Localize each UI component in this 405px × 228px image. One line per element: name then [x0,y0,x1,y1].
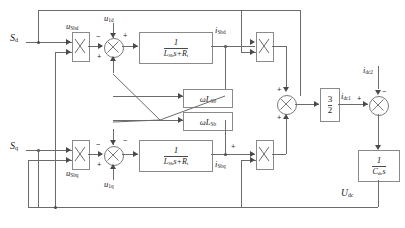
feedback-rail-bottom-left-riser [28,160,29,207]
label-u-dc: Udc [341,189,353,199]
arrow-multqright-sumcenter [283,114,289,119]
arrow-sumq-tfq [133,151,138,157]
label-u-sbd: uSbd [66,22,78,31]
multiplier-q-left [72,140,90,170]
wire-multdright-out [272,46,286,47]
sum-cross-icon [370,97,386,113]
arrow-multd-sumd [98,43,103,49]
sign-sumd-minus: − [96,33,100,41]
cross-coupling-crossover [112,72,228,124]
input-label-sd: Sd [10,33,18,43]
wire-u1q-up [113,168,114,180]
sign-sumd-plus-top: + [123,32,127,40]
control-block-diagram: Sd uSbd u1d − + + 1 LSbs+R [0,0,405,228]
gain-numerator: 3 [328,95,333,104]
capacitor-block: 1 Cdcs [358,150,400,182]
feedback-rail-top-left-drop [38,10,39,42]
wire-multqright-out [272,154,286,155]
wire-omega-top-feed [113,96,160,97]
sign-sumdc-plus: + [357,95,361,103]
label-u-1d: u1d [104,14,114,23]
wire-udc-riser-d [55,52,56,207]
sum-cross-icon [105,147,121,163]
multiply-icon [73,33,87,59]
multiplier-q-right [256,140,274,170]
multiply-icon [257,141,271,167]
feedback-rail-bottom [28,207,378,208]
tfd-denominator: LSbs+Ri [164,48,188,59]
sign-sumq-minus-left: − [96,141,100,149]
junction-dot-udc-branch [54,206,57,209]
feedback-rail-top-right-drop [300,10,301,96]
multiply-icon [257,33,271,59]
arrow-sumd-tfd [133,43,138,49]
sign-sumq-minus-top: − [123,137,127,145]
wire-sq-riser [38,150,39,207]
summing-junction-center [277,95,297,115]
arrow-sq-mult [66,147,71,153]
sign-sumq-plus: + [97,161,101,169]
arrow-coupling-sumq [110,140,116,145]
arrow-coupling-sumd [110,56,116,61]
label-u-1q: u1q [104,180,114,189]
label-i-dc2: idc2 [363,66,373,75]
arrow-sd-mult-right [250,49,255,55]
multiply-icon [73,141,87,167]
wire-omega-bottom-feed [113,120,160,121]
transfer-function-d: 1 LSbs+Ri [139,32,213,64]
wire-tfq-out [211,154,255,155]
tfq-numerator: 1 [174,146,179,156]
arrow-gain-sumdc [363,101,368,107]
junction-dot-sd [37,41,40,44]
cap-numerator: 1 [377,156,382,166]
summing-junction-d [104,38,124,58]
arrow-sq-mult-right [250,157,255,163]
label-i-sbd: iSbd [215,26,226,35]
arrow-multq-sumq [98,151,103,157]
wire-tfd-out [211,46,255,47]
sum-cross-icon [105,39,121,55]
arrow-idc2-sumdc [375,90,381,95]
sign-sumd-plus-bottom: + [97,53,101,61]
arrow-udc-mult-d [66,49,71,55]
arrow-isbd-mult-right [250,39,255,45]
sign-tfq-out-plus: + [231,143,235,151]
wire-idc2-down [378,66,379,89]
arrow-sumcenter-gain [314,101,319,107]
wire-cap-out-down [378,180,379,207]
input-label-sq: Sq [10,141,18,151]
arrow-udc-mult-q [66,157,71,163]
tfq-denominator: LSbs+Ri [164,156,188,167]
arrow-multdright-sumcenter [283,87,289,92]
sum-cross-icon [278,96,294,112]
multiplier-d-left [72,32,90,62]
feedback-rail-top [38,10,300,11]
wire-isbq-up-coupling [225,120,226,154]
multiplier-d-right [256,32,274,62]
wire-rail-to-mult-right-q [241,160,242,207]
wire-multdright-down [286,46,287,90]
arrow-sd-mult [66,39,71,45]
sign-sumdc-minus: − [382,88,386,96]
wire-rail-to-mult-right-d [241,10,242,52]
summing-junction-q [104,146,124,166]
summing-junction-dc [369,96,389,116]
cap-denominator: Cdcs [372,166,385,177]
label-i-dc1: idc1 [341,92,351,101]
label-u-sbq: uSbq [66,169,78,178]
tfd-numerator: 1 [174,38,179,48]
wire-multqright-up [286,118,287,154]
gain-denominator: 2 [328,105,333,115]
wire-sumdc-to-cap [378,114,379,147]
sign-center-plus-bottom: + [277,114,281,122]
label-i-sbq: iSbq [215,160,226,169]
sign-center-plus-top: + [277,86,281,94]
gain-block-three-halves: 3 2 [320,88,340,122]
transfer-function-q: 1 LSbs+Ri [139,140,213,172]
arrow-u1q-sumq [110,164,116,169]
